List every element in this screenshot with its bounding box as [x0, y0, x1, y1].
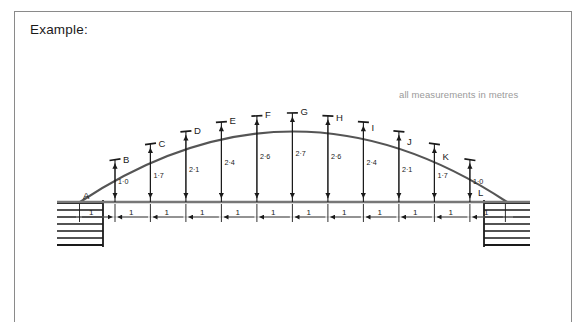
ordinate-K: 1·7 K: [429, 143, 450, 202]
ordinate-value: 2·1: [189, 165, 199, 174]
bay-6: 1: [259, 208, 290, 217]
figure-page: Example: all measurements in metres: [0, 0, 587, 322]
ordinate-F: 2·6 F: [251, 109, 271, 202]
ordinate-label: L: [478, 187, 483, 198]
bay-label: 1: [164, 208, 169, 217]
bay-label: 1: [200, 208, 205, 217]
ordinate-label: E: [229, 115, 235, 126]
bay-label: 1: [377, 208, 382, 217]
right-abutment: [484, 200, 530, 247]
arch-diagram: 1·0 B 1·7 C 2·1 D 2·4: [0, 0, 587, 322]
ordinate-B: 1·0 B: [110, 154, 130, 202]
bay-label: 1: [306, 208, 311, 217]
ordinate-value: 2·7: [295, 149, 305, 158]
bay-8: 1: [330, 208, 361, 217]
ordinate-value: 1·0: [118, 177, 128, 186]
ordinate-E: 2·4 E: [216, 115, 236, 202]
ordinate-J: 2·1 J: [393, 131, 412, 202]
bay-10: 1: [401, 208, 432, 217]
left-abutment: [57, 200, 103, 247]
bay-label: 1: [484, 208, 489, 217]
bay-label: 1: [271, 208, 276, 217]
ordinate-value: 2·6: [331, 152, 341, 161]
ordinate-value: 1·7: [437, 171, 447, 180]
ordinate-G: 2·7 G: [287, 106, 308, 202]
bay-5: 1: [224, 208, 255, 217]
ordinate-label: I: [371, 122, 374, 133]
ordinate-label: J: [407, 136, 412, 147]
bay-7: 1: [295, 208, 326, 217]
ordinate-value: 2·4: [224, 158, 234, 167]
ordinate-label-a: A: [83, 190, 90, 201]
ordinate-value: 2·4: [366, 158, 376, 167]
ordinate-value: 2·6: [260, 152, 270, 161]
ordinate-value: 1·0: [473, 177, 483, 186]
arch-curve: [80, 132, 507, 203]
ordinate-label: G: [300, 106, 307, 117]
ordinate-group: 1·0 B 1·7 C 2·1 D 2·4: [110, 106, 484, 202]
ordinate-D: 2·1 D: [180, 125, 201, 202]
ordinate-H: 2·6 H: [322, 112, 343, 202]
span-dimension-line: 1 1 1 1 1 1 1: [76, 204, 513, 222]
bay-3: 1: [153, 208, 184, 217]
bay-4: 1: [188, 208, 219, 217]
ordinate-label: F: [265, 109, 271, 120]
ordinate-I: 2·4 I: [358, 122, 377, 202]
ordinate-label: H: [336, 112, 343, 123]
ordinate-L: 1·0 L: [464, 159, 483, 202]
bay-9: 1: [366, 208, 397, 217]
ordinate-value: 2·1: [402, 165, 412, 174]
ordinate-label: C: [158, 138, 165, 149]
ordinate-label: B: [123, 154, 129, 165]
bay-label: 1: [235, 208, 240, 217]
bay-2: 1: [118, 208, 149, 217]
ordinate-label: K: [442, 151, 449, 162]
ordinate-C: 1·7 C: [145, 138, 165, 202]
bay-label: 1: [448, 208, 453, 217]
bay-label: 1: [413, 208, 418, 217]
bay-label: 1: [129, 208, 134, 217]
ordinate-label: D: [194, 125, 201, 136]
bay-label: 1: [342, 208, 347, 217]
bay-label: 1: [89, 208, 94, 217]
ordinate-value: 1·7: [153, 171, 163, 180]
bay-11: 1: [437, 208, 468, 217]
